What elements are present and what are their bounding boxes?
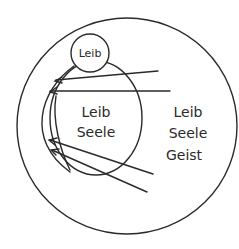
arrow-line-1: [56, 71, 158, 80]
outer-label-line-1: Leib: [174, 104, 203, 120]
inner-arc: [55, 96, 70, 170]
inner-label-line-2: Seele: [77, 124, 116, 140]
outer-label-line-2: Seele: [169, 125, 208, 141]
diagram-canvas: Leib Leib Seele Leib Seele Geist: [0, 0, 239, 249]
small-circle-label: Leib: [79, 47, 102, 60]
outer-label-line-3: Geist: [166, 147, 203, 163]
inner-label-line-1: Leib: [82, 104, 111, 120]
